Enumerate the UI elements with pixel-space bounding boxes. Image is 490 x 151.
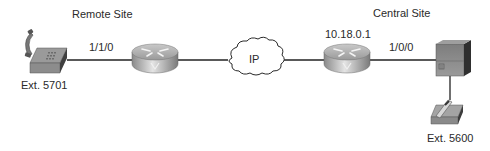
cloud-label: IP: [249, 53, 259, 65]
voice-router-icon: [132, 44, 178, 73]
pbx-switch-icon: [436, 40, 471, 76]
port-label-remote: 1/1/0: [89, 41, 113, 53]
site-label-remote: Remote Site: [72, 8, 133, 20]
extension-label-central: Ext. 5600: [427, 132, 473, 144]
phone-icon: [24, 29, 67, 73]
port-label-central: 1/0/0: [389, 41, 413, 53]
site-label-central: Central Site: [373, 7, 430, 19]
extension-label-remote: Ext. 5701: [21, 79, 67, 91]
phone-icon: [431, 100, 463, 124]
router-ip-label: 10.18.0.1: [325, 28, 371, 40]
voice-router-icon: [324, 44, 370, 73]
